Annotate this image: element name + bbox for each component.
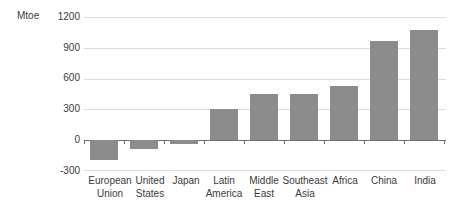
x-label-india: India <box>398 174 452 187</box>
bar-southeast-asia <box>290 94 318 140</box>
y-tick-label: 900 <box>38 43 80 53</box>
bar-united-states <box>130 140 158 149</box>
y-tick-label: 300 <box>38 104 80 114</box>
bar-series <box>84 17 446 170</box>
x-tick <box>204 140 205 144</box>
x-label-line1: China <box>371 175 397 186</box>
bar-european-union <box>90 140 118 160</box>
x-tick <box>244 140 245 144</box>
x-tick <box>284 140 285 144</box>
x-axis-category-labels: European Union United States Japan Latin… <box>84 174 446 212</box>
bar-chart: Mtoe 1200 900 600 300 0 -300 <box>0 0 456 213</box>
bar-africa <box>330 86 358 140</box>
bar-japan <box>170 140 198 144</box>
x-tick <box>444 140 445 144</box>
x-label-line1: India <box>414 175 436 186</box>
bar-middle-east <box>250 94 278 140</box>
x-tick <box>124 140 125 144</box>
bar-china <box>370 41 398 140</box>
y-tick-label: 0 <box>38 135 80 145</box>
x-tick <box>84 140 85 144</box>
x-tick <box>364 140 365 144</box>
x-tick <box>164 140 165 144</box>
bar-india <box>410 30 438 140</box>
y-tick-label: 1200 <box>38 12 80 22</box>
x-label-line1: Africa <box>332 175 358 186</box>
x-label-line1: Latin <box>213 175 235 186</box>
y-tick-label: 600 <box>38 73 80 83</box>
gridline-minus300 <box>84 170 446 171</box>
plot-area <box>84 17 446 170</box>
x-tick <box>404 140 405 144</box>
x-tick <box>324 140 325 144</box>
x-label-line2: States <box>116 187 184 200</box>
bar-latin-america <box>210 109 238 140</box>
x-label-line2: Asia <box>272 187 338 200</box>
